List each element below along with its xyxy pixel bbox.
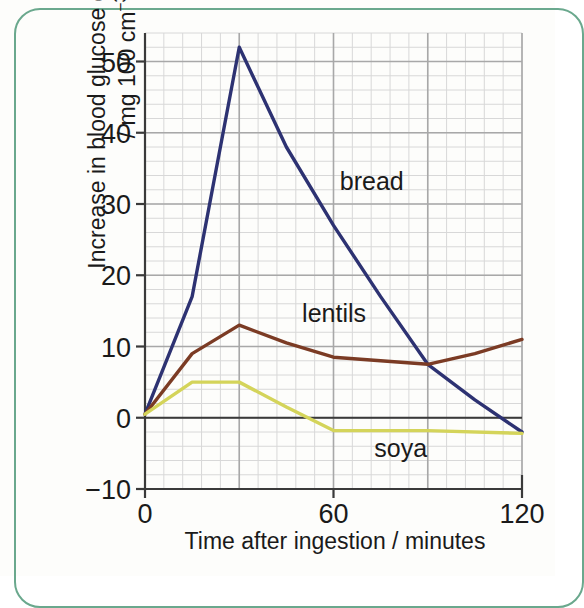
y-axis-units: / mg 100 cm (114, 12, 140, 139)
x-axis-title: Time after ingestion / minutes (145, 528, 525, 555)
y-axis-title: Increase in blood glucose concentration … (82, 0, 142, 296)
x-tick-label: 60 (318, 499, 348, 529)
series-label-lentils: lentils (302, 299, 366, 327)
y-axis-title-line1: Increase in blood glucose concentration (83, 0, 111, 269)
x-tick-label: 120 (499, 499, 544, 529)
y-axis-title-line2: / mg 100 cm−3 (111, 0, 141, 269)
y-axis-units-exponent: −3 (112, 0, 129, 12)
series-label-soya: soya (374, 434, 427, 462)
y-tick-label: 0 (116, 404, 131, 434)
y-tick-label: −10 (85, 475, 131, 505)
y-tick-label: 10 (101, 333, 131, 363)
x-tick-label: 0 (137, 499, 152, 529)
series-label-bread: bread (340, 167, 404, 195)
